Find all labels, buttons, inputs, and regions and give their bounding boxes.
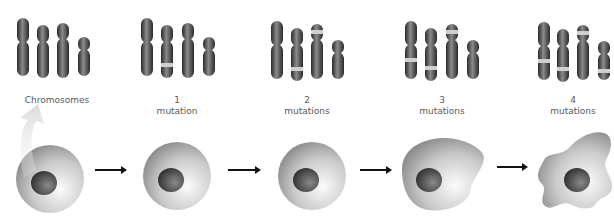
stage-label-2: 2 mutations <box>262 95 352 117</box>
chromosome-set-4-mutations <box>538 22 610 82</box>
cell-3-mutations <box>402 138 484 210</box>
label-text: mutation <box>132 106 222 117</box>
label-number: 3 <box>397 95 487 106</box>
chromosome-set-2-mutations <box>271 21 344 81</box>
arrow-icon <box>95 166 127 174</box>
stage-label-normal: Chromosomes <box>12 95 102 106</box>
stage-label-3: 3 mutations <box>397 95 487 117</box>
arrow-icon <box>360 166 392 174</box>
stage-label-4: 4 mutations <box>528 95 614 117</box>
label-text: mutations <box>528 106 614 117</box>
chromosome-set-normal <box>17 18 90 78</box>
cancer-progression-diagram: Chromosomes 1 mutation 2 mutations 3 mut… <box>0 0 614 217</box>
cell-1-mutation <box>143 142 211 210</box>
cell-4-mutations <box>538 132 612 208</box>
cell-2-mutations <box>278 142 346 210</box>
label-line: Chromosomes <box>12 95 102 106</box>
label-number: 1 <box>132 95 222 106</box>
chromosome-set-1-mutation <box>141 18 215 78</box>
label-number: 2 <box>262 95 352 106</box>
arrow-icon <box>497 163 528 171</box>
label-text: mutations <box>397 106 487 117</box>
label-text: mutations <box>262 106 352 117</box>
stage-label-1: 1 mutation <box>132 95 222 117</box>
label-number: 4 <box>528 95 614 106</box>
chromosome-set-3-mutations <box>405 21 479 81</box>
arrow-icon <box>228 166 261 174</box>
